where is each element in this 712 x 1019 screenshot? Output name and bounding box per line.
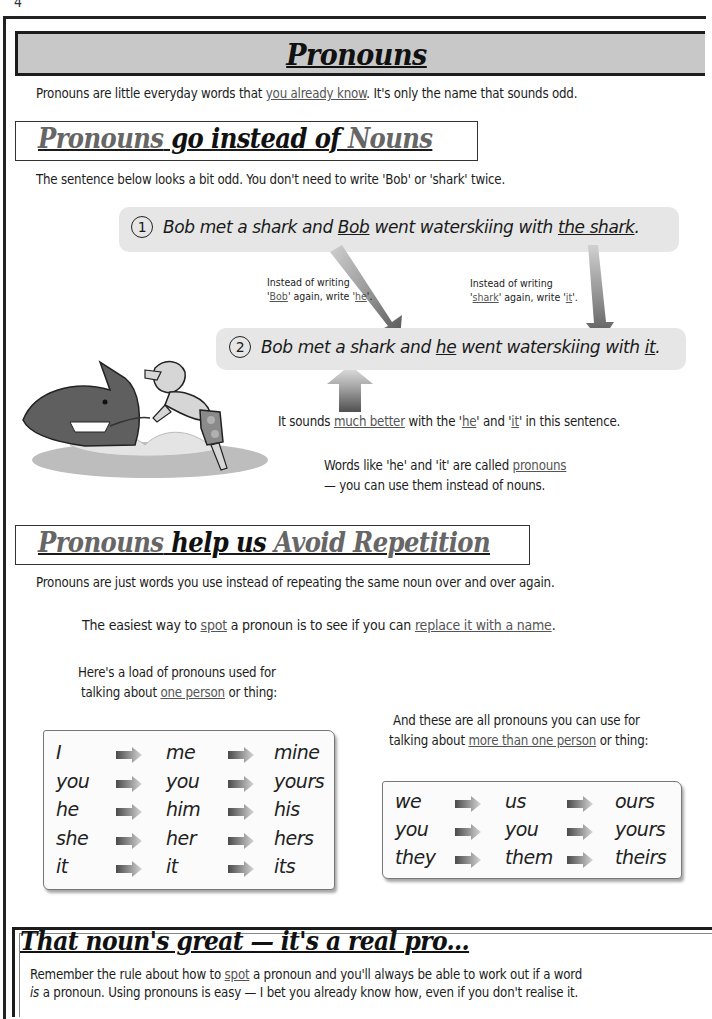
heading-part: Avoid Repetition [274, 527, 490, 558]
caption-line: talking about more than one person or th… [389, 731, 648, 751]
pronoun-cell: him [166, 798, 200, 820]
right-arrow-icon [455, 796, 481, 812]
pronoun-cell: theirs [615, 846, 666, 868]
section2-heading: Pronouns help us Avoid Repetition [38, 527, 490, 558]
pronoun-cell: he [56, 798, 79, 820]
text-underlined: pronouns [513, 458, 567, 473]
text-part: or thing: [596, 733, 648, 748]
note-line: Instead of writing [267, 275, 372, 289]
plural-caption: And these are all pronouns you can use f… [389, 711, 648, 751]
text-part: . [552, 617, 556, 633]
right-arrow-icon [116, 861, 142, 877]
text-part: It sounds [278, 414, 334, 429]
pronoun-cell: hers [274, 827, 313, 849]
text-underlined: one person [160, 685, 225, 700]
sentence-highlight: he [436, 337, 456, 357]
text-part: a pronoun. Using pronouns is easy — I be… [39, 985, 578, 1000]
pronoun-cell: you [395, 818, 428, 840]
called-text: Words like 'he' and 'it' are called pron… [324, 456, 566, 496]
note-part: '. [367, 290, 373, 302]
summary-text: Remember the rule about how to spot a pr… [30, 966, 582, 1002]
right-arrow-icon [116, 747, 142, 763]
right-arrow-icon [228, 833, 254, 849]
pronoun-cell: me [166, 741, 195, 763]
summary-line1: Remember the rule about how to spot a pr… [30, 966, 582, 984]
text-part: The easiest way to [82, 617, 201, 633]
plural-pronoun-card: weusoursyouyouyourstheythemtheirs [382, 781, 682, 879]
note-underlined: shark [473, 291, 499, 303]
text-underlined: more than one person [468, 733, 596, 748]
right-arrow-icon [228, 804, 254, 820]
right-arrow-icon [228, 776, 254, 792]
section2-heading-box: Pronouns help us Avoid Repetition [15, 525, 530, 565]
caption-line: talking about one person or thing: [78, 683, 277, 703]
note-bob: Instead of writing 'Bob' again, write 'h… [267, 275, 372, 303]
text-underlined: he [462, 414, 476, 429]
text-part: or thing: [225, 685, 277, 700]
sentence-highlight: it [645, 337, 656, 357]
pronoun-cell: yours [615, 818, 665, 840]
pronoun-cell: yours [274, 770, 324, 792]
note-line: 'Bob' again, write 'he'. [267, 289, 372, 303]
text-italic: is [30, 985, 39, 1000]
pronoun-cell: its [274, 855, 295, 877]
text-part: a pronoun and you'll always be able to w… [249, 967, 582, 982]
shark-icon [23, 362, 139, 446]
summary-heading: That noun's great — it's a real pro... [20, 926, 469, 956]
text-part: a pronoun is to see if you can [227, 617, 415, 633]
text-part: ' in this sentence. [519, 414, 620, 429]
right-arrow-icon [228, 861, 254, 877]
text-part: talking about [81, 685, 160, 700]
pronoun-cell: her [166, 827, 196, 849]
pronoun-cell: mine [274, 741, 320, 763]
singular-caption: Here's a load of pronouns used for talki… [78, 663, 277, 703]
text-underlined: much better [334, 414, 405, 429]
sentence-part: went waterskiing with [456, 337, 644, 357]
arrow-up-icon [327, 365, 373, 412]
note-underlined: he [355, 290, 367, 302]
pronoun-cell: you [56, 770, 89, 792]
text-underlined: spot [225, 967, 250, 982]
note-underlined: Bob [270, 290, 288, 302]
caption-line: Here's a load of pronouns used for [78, 663, 277, 683]
caption-line: And these are all pronouns you can use f… [389, 711, 648, 731]
text-underlined: replace it with a name [415, 617, 552, 633]
called-line2: — you can use them instead of nouns. [324, 476, 566, 496]
pronoun-cell: it [56, 855, 68, 877]
sentence-part: . [655, 337, 660, 357]
note-part: ' again, write ' [499, 291, 566, 303]
note-part: '. [572, 291, 578, 303]
right-arrow-icon [228, 747, 254, 763]
sentence2: 2Bob met a shark and he went waterskiing… [229, 336, 660, 358]
pronoun-cell: us [505, 790, 526, 812]
right-arrow-icon [567, 852, 593, 868]
note-part: ' again, write ' [288, 290, 355, 302]
right-arrow-icon [567, 824, 593, 840]
summary-line2: is a pronoun. Using pronouns is easy — I… [30, 984, 582, 1002]
shark-waterskiing-illustration [15, 350, 275, 480]
heading-part: help us [163, 527, 274, 558]
pronoun-cell: it [166, 855, 178, 877]
right-arrow-icon [455, 824, 481, 840]
pronoun-cell: them [505, 846, 553, 868]
text-part: talking about [389, 733, 468, 748]
right-arrow-icon [567, 796, 593, 812]
pronoun-cell: you [166, 770, 199, 792]
text-underlined: it [511, 414, 519, 429]
note-shark: Instead of writing 'shark' again, write … [470, 276, 578, 304]
text-underlined: spot [201, 617, 227, 633]
spot-tip: The easiest way to spot a pronoun is to … [82, 617, 555, 633]
right-arrow-icon [116, 804, 142, 820]
right-arrow-icon [455, 852, 481, 868]
pronoun-cell: they [395, 846, 435, 868]
note-line: 'shark' again, write 'it'. [470, 290, 578, 304]
note-line: Instead of writing [470, 276, 578, 290]
heading-part: Pronouns [38, 527, 163, 558]
text-part: with the ' [405, 414, 462, 429]
sentence-part: Bob met a shark and [261, 337, 436, 357]
called-line1: Words like 'he' and 'it' are called pron… [324, 456, 566, 476]
singular-pronoun-card: Imemineyouyouyourshehimhissheherhersitit… [43, 730, 335, 890]
text-part: Words like 'he' and 'it' are called [324, 458, 513, 473]
better-text: It sounds much better with the 'he' and … [278, 414, 620, 429]
pronoun-cell: his [274, 798, 300, 820]
